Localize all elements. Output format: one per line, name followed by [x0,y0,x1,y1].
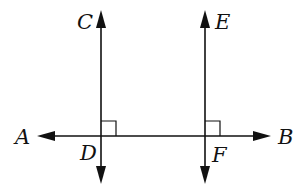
label-f: F [211,143,228,167]
arrowhead-f-icon [200,166,210,184]
arrowhead-c-icon [96,10,106,28]
label-e: E [214,10,230,34]
label-d: D [79,141,97,165]
right-angle-mark-f [205,121,220,136]
arrowhead-e-icon [200,10,210,28]
right-angle-mark-d [101,121,116,136]
label-c: C [77,10,93,34]
label-b: B [277,125,293,149]
arrowhead-d-icon [96,166,106,184]
geometry-diagram: A B C D E F [0,0,305,191]
arrowhead-a-icon [37,131,55,141]
line-ab [37,131,271,141]
line-cd [96,10,116,184]
label-a: A [13,125,30,149]
arrowhead-b-icon [253,131,271,141]
